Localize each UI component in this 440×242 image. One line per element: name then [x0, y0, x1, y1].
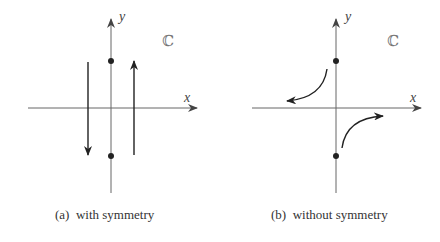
point-lower	[333, 153, 339, 159]
point-lower	[108, 153, 114, 159]
upper-curve	[287, 69, 327, 101]
point-upper	[108, 58, 114, 64]
y-label: y	[343, 9, 352, 24]
complex-plane-symbol: ℂ	[162, 32, 174, 50]
caption-b: (b) without symmetry	[271, 207, 388, 223]
point-upper	[333, 58, 339, 64]
lower-curve	[342, 116, 383, 148]
y-label: y	[117, 9, 126, 24]
x-label: x	[409, 90, 417, 105]
panel-b: y x ℂ	[252, 9, 421, 193]
caption-a: (a) with symmetry	[55, 207, 154, 223]
x-label: x	[183, 90, 191, 105]
complex-plane-symbol: ℂ	[387, 32, 399, 50]
panel-a: y x ℂ	[28, 9, 197, 193]
figure: y x ℂ y x ℂ	[0, 0, 440, 242]
